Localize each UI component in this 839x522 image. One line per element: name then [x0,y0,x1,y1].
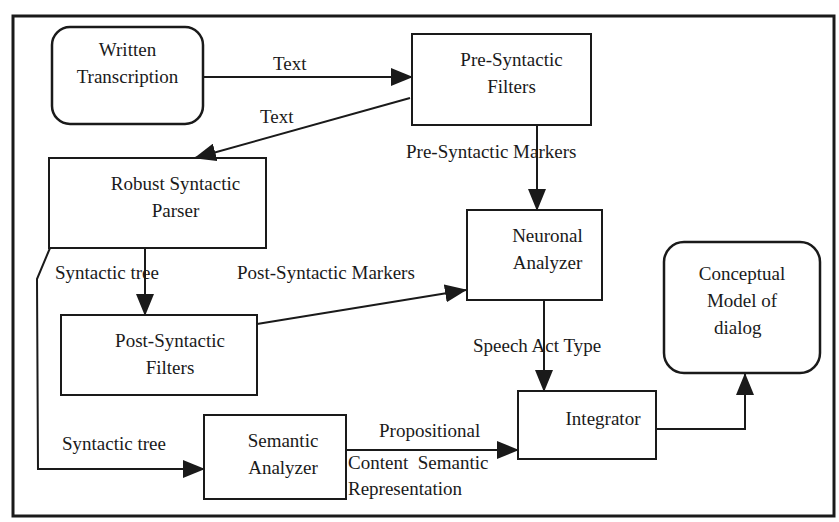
edge-label-text-2: Text [260,106,294,128]
edge-label-representation: Representation [348,478,462,500]
written-transcription-label: Written Transcription [52,36,203,90]
pre-syntactic-filters-label: Pre-Syntactic Filters [422,46,601,100]
edge-post-syntactic-markers [257,290,466,324]
edge-label-post-syntactic-markers: Post-Syntactic Markers [237,262,415,284]
edge-text-2 [195,98,410,158]
integrator-label: Integrator [534,405,672,432]
edge-label-text-1: Text [273,53,307,75]
edge-label-syntactic-tree-1: Syntactic tree [55,262,159,284]
conceptual-model-label: Conceptual Model of dialog [664,260,820,341]
edge-label-syntactic-tree-2: Syntactic tree [62,433,166,455]
semantic-analyzer-label: Semantic Analyzer [212,427,354,481]
edge-label-content-semantic: Content Semantic [348,452,488,474]
edge-label-speech-act-type: Speech Act Type [473,335,601,357]
edge-label-pre-syntactic-markers: Pre-Syntactic Markers [406,141,576,163]
robust-syntactic-parser-label: Robust Syntactic Parser [67,170,284,224]
architecture-diagram: Written Transcription Pre-Syntactic Filt… [0,0,839,522]
neuronal-analyzer-label: Neuronal Analyzer [480,222,615,276]
post-syntactic-filters-label: Post-Syntactic Filters [72,327,268,381]
edge-label-propositional: Propositional [379,420,480,442]
